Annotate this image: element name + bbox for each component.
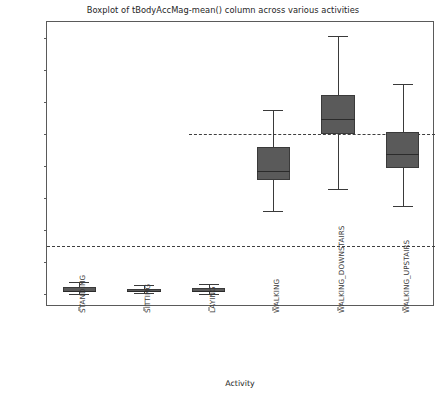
y-tick-mark <box>44 230 48 231</box>
x-tick-label-container: WALKING_DOWNSTAIRS <box>332 313 342 323</box>
x-axis-label: Activity <box>46 379 434 388</box>
median-line <box>386 154 420 155</box>
y-tick-mark <box>44 38 48 39</box>
figure: Boxplot of tBodyAccMag-mean() column acr… <box>0 0 446 402</box>
x-tick-label-container: WALKING_UPSTAIRS <box>397 313 407 323</box>
y-tick-mark <box>44 134 48 135</box>
x-tick-label-walking-upstairs: WALKING_UPSTAIRS <box>402 240 411 313</box>
y-axis-label: Body Acceleration Magnitude mean <box>8 0 17 39</box>
upper-whisker <box>403 84 404 133</box>
x-tick-label-container: WALKING <box>267 313 277 323</box>
lower-whisker <box>403 168 404 206</box>
y-tick-mark <box>44 166 48 167</box>
x-tick-label-walking-downstairs: WALKING_DOWNSTAIRS <box>337 226 346 313</box>
x-tick-label-laying: LAYING <box>208 286 217 313</box>
y-tick-mark <box>44 70 48 71</box>
y-tick-mark <box>44 262 48 263</box>
upper-cap <box>393 84 413 85</box>
plot-area: 0.60.40.20.0−0.2−0.4−0.6−0.8−1.0 <box>46 21 434 306</box>
plot-inner <box>47 22 433 305</box>
x-tick-label-walking: WALKING <box>272 279 281 313</box>
chart-title: Boxplot of tBodyAccMag-mean() column acr… <box>0 5 446 15</box>
x-tick-label-container: STANDING <box>73 313 83 323</box>
x-tick-label-sitting: SITTING <box>143 284 152 313</box>
box-plot-item <box>47 22 435 305</box>
x-tick-label-container: LAYING <box>203 313 213 323</box>
y-tick-mark <box>44 102 48 103</box>
y-tick-mark <box>44 294 48 295</box>
y-tick-mark <box>44 198 48 199</box>
x-tick-label-standing: STANDING <box>78 275 87 313</box>
x-tick-label-container: SITTING <box>138 313 148 323</box>
box-iqr-rect <box>386 132 420 167</box>
lower-cap <box>393 206 413 207</box>
y-axis-label-container: Body Acceleration Magnitude mean <box>11 21 25 306</box>
